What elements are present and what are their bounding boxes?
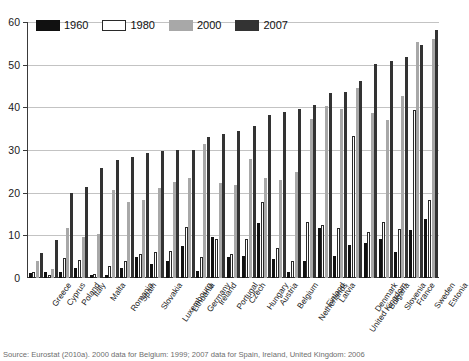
- bar-malta-2007: [100, 168, 103, 279]
- bar-slovenia-1980: [382, 222, 385, 278]
- bar-malta-1960: [90, 275, 93, 278]
- country-bar-group: [43, 22, 58, 278]
- bar-hungary-2000: [249, 159, 252, 278]
- bar-luxembourg-2007: [161, 151, 164, 278]
- bar-luxembourg-1960: [150, 264, 153, 278]
- bar-spain-2007: [131, 157, 134, 278]
- legend-entry-2000: 2000: [169, 20, 221, 31]
- bar-latvia-2000: [325, 106, 328, 278]
- legend-swatch-1960: [36, 20, 60, 31]
- bar-netherlands-2007: [298, 109, 301, 278]
- legend-label-2000: 2000: [197, 20, 221, 31]
- bar-finland-2000: [310, 119, 313, 278]
- country-bar-group: [256, 22, 271, 278]
- bar-netherlands-1960: [287, 272, 290, 278]
- bar-portugal-1960: [211, 237, 214, 278]
- bar-italy-1980: [78, 260, 81, 278]
- bar-estonia-1980: [428, 200, 431, 278]
- country-bar-group: [408, 22, 423, 278]
- bar-finland-2007: [313, 105, 316, 278]
- bar-malta-1980: [93, 274, 96, 278]
- legend-label-2007: 2007: [263, 20, 287, 31]
- bar-belgium-2007: [283, 112, 286, 278]
- bar-lithuania-1980: [169, 251, 172, 278]
- bar-hungary-1960: [242, 256, 245, 278]
- bar-united-kingdom-1960: [333, 256, 336, 278]
- bar-estonia-2000: [432, 39, 435, 278]
- bar-portugal-1980: [215, 239, 218, 278]
- bar-lithuania-2000: [173, 182, 176, 278]
- country-bar-group: [348, 22, 363, 278]
- country-bar-group: [135, 22, 150, 278]
- bar-austria-1980: [261, 202, 264, 278]
- legend-entry-1960: 1960: [36, 20, 88, 31]
- legend-label-1980: 1980: [130, 20, 154, 31]
- bar-latvia-2007: [329, 93, 332, 278]
- bar-greece-1980: [32, 272, 35, 278]
- bar-italy-1960: [74, 268, 77, 278]
- x-tick-label: Spain: [139, 281, 158, 303]
- y-tick-label: 60: [8, 17, 20, 27]
- y-axis: 0102030405060: [0, 22, 24, 278]
- bar-ireland-1980: [200, 257, 203, 278]
- country-bar-group: [195, 22, 210, 278]
- bar-sweden-1960: [409, 230, 412, 278]
- bar-cyprus-1960: [44, 272, 47, 278]
- bar-united-kingdom-2000: [340, 109, 343, 278]
- bar-united-kingdom-1980: [337, 228, 340, 278]
- bar-portugal-2000: [219, 183, 222, 278]
- bar-belgium-1960: [272, 259, 275, 278]
- bar-czech-1980: [230, 254, 233, 278]
- x-axis: GreeceCyprusPolandItalyMaltaRomaniaSpain…: [28, 279, 439, 341]
- country-bar-group: [28, 22, 43, 278]
- bar-hungary-2007: [253, 126, 256, 278]
- bar-cyprus-2007: [55, 240, 58, 278]
- bar-portugal-2007: [222, 134, 225, 278]
- bar-poland-1980: [63, 258, 66, 278]
- bar-sweden-2007: [420, 45, 423, 278]
- y-tick-label: 10: [8, 230, 20, 240]
- country-bar-group: [89, 22, 104, 278]
- country-bar-group: [104, 22, 119, 278]
- country-bar-group: [150, 22, 165, 278]
- bar-lithuania-1960: [166, 261, 169, 278]
- bar-austria-2000: [264, 178, 267, 278]
- bar-poland-1960: [59, 272, 62, 278]
- bar-sweden-1980: [413, 110, 416, 278]
- source-note: Source: Eurostat (2010a). 2000 data for …: [3, 350, 441, 359]
- y-tick-label: 20: [8, 188, 20, 198]
- bar-greece-2000: [36, 261, 39, 278]
- bar-france-1980: [398, 229, 401, 278]
- bar-ireland-1960: [196, 271, 199, 278]
- y-tick-label: 40: [8, 102, 20, 112]
- bar-denmark-2000: [356, 88, 359, 278]
- bar-czech-2000: [234, 185, 237, 278]
- bar-slovenia-2000: [386, 120, 389, 278]
- bar-estonia-1960: [424, 219, 427, 278]
- country-bar-group: [287, 22, 302, 278]
- bar-bulgaria-2000: [371, 113, 374, 278]
- legend-entry-1980: 1980: [102, 20, 154, 31]
- bar-slovenia-1960: [379, 239, 382, 278]
- bar-austria-2007: [268, 115, 271, 278]
- y-tick-label: 50: [8, 60, 20, 70]
- bar-romania-2007: [116, 160, 119, 278]
- bar-romania-1980: [108, 266, 111, 278]
- bar-greece-1960: [29, 273, 32, 278]
- country-bar-group: [119, 22, 134, 278]
- bar-ireland-2000: [203, 144, 206, 278]
- country-bar-group: [302, 22, 317, 278]
- bar-france-2007: [405, 57, 408, 278]
- bar-italy-2007: [85, 187, 88, 278]
- country-bar-group: [317, 22, 332, 278]
- bar-czech-1960: [227, 257, 230, 278]
- bars-layer: [28, 22, 439, 278]
- bar-luxembourg-2000: [158, 188, 161, 278]
- bar-belgium-2000: [279, 180, 282, 278]
- country-bar-group: [180, 22, 195, 278]
- bar-ireland-2007: [207, 137, 210, 278]
- country-bar-group: [393, 22, 408, 278]
- country-bar-group: [424, 22, 439, 278]
- legend-swatch-1980: [102, 20, 126, 31]
- country-bar-group: [58, 22, 73, 278]
